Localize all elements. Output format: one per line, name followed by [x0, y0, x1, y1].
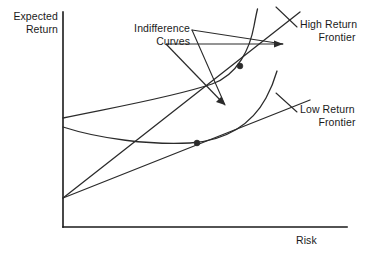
upper-tangency-point	[237, 63, 243, 69]
indifference-leader-upper	[192, 30, 283, 44]
indifference-curves-label: Indifference Curves	[108, 22, 190, 47]
high-return-frontier-label: High ReturnFrontier	[300, 18, 374, 43]
x-axis-label: Risk	[296, 234, 346, 247]
low-frontier-label-line1: Low Return	[300, 103, 355, 115]
low-return-frontier-line	[63, 100, 310, 198]
efficient-frontier-figure: Expected Return Risk Indifference Curves…	[0, 0, 375, 259]
low-return-frontier-label: Low ReturnFrontier	[300, 103, 374, 128]
indifference-curve-lower	[63, 71, 277, 143]
y-axis-label-line2: Return	[26, 23, 58, 35]
y-axis-label: Expected Return	[0, 10, 58, 35]
arrowhead-horizontal	[274, 41, 283, 48]
indifference-label-line1: Indifference	[134, 22, 190, 34]
high-frontier-label-line2: Frontier	[300, 31, 374, 44]
y-axis-label-line1: Expected	[13, 10, 58, 22]
indifference-leader-lower	[192, 30, 225, 105]
low-frontier-label-line2: Frontier	[300, 116, 374, 129]
lower-tangency-point	[194, 140, 200, 146]
high-frontier-label-line1: High Return	[300, 18, 357, 30]
indifference-label-line2: Curves	[156, 35, 190, 47]
